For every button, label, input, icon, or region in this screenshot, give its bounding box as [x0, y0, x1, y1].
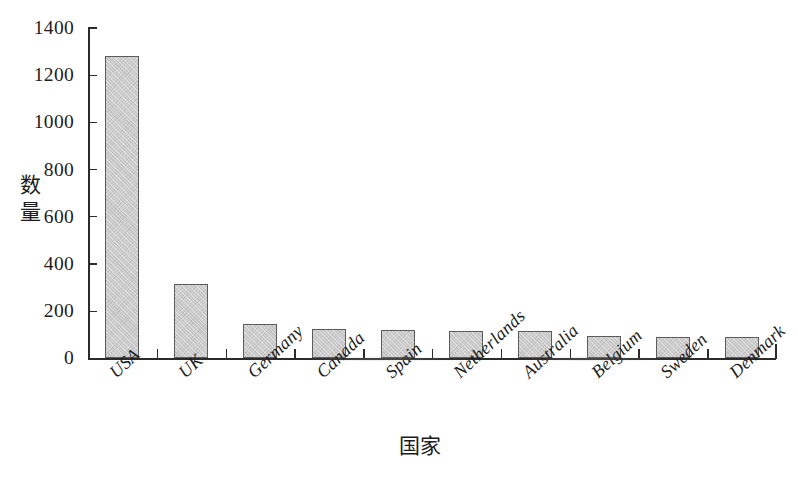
x-tick-mark [294, 349, 295, 359]
x-axis-origin-tick [88, 344, 90, 359]
x-tick-mark [638, 349, 639, 359]
x-tick-mark [157, 349, 158, 359]
y-tick-label: 1400 [18, 18, 74, 38]
x-tick-mark [363, 349, 364, 359]
y-tick-mark [88, 311, 97, 312]
y-tick-mark [88, 263, 97, 264]
x-tick-mark [226, 349, 227, 359]
x-tick-mark [570, 349, 571, 359]
x-tick-mark [707, 349, 708, 359]
y-tick-label: 1200 [18, 65, 74, 85]
bar [174, 284, 208, 358]
y-tick-label: 400 [18, 254, 74, 274]
y-tick-label: 200 [18, 301, 74, 321]
x-tick-mark [501, 349, 502, 359]
y-tick-mark [88, 75, 97, 76]
y-tick-mark [88, 216, 97, 217]
bar-chart: 数 量 0200400600800100012001400 USAUKGerma… [0, 0, 798, 483]
x-axis-title: 国家 [380, 434, 460, 458]
y-tick-mark [88, 122, 97, 123]
x-tick-mark [432, 349, 433, 359]
bar [105, 56, 139, 358]
y-tick-mark [88, 169, 97, 170]
y-tick-label: 0 [18, 348, 74, 368]
y-tick-label: 1000 [18, 112, 74, 132]
y-axis-top-tick [88, 27, 97, 28]
y-tick-label: 600 [18, 207, 74, 227]
y-tick-label: 800 [18, 160, 74, 180]
